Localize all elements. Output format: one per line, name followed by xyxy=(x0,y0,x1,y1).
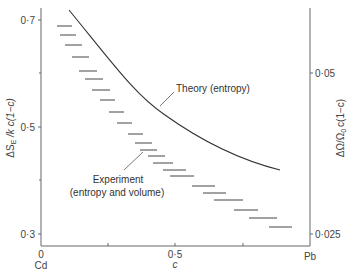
experiment-annotation-line2: (entropy and volume) xyxy=(70,187,165,198)
y-right-axis-title: ΔΩ/Ω0c(1−c) xyxy=(335,99,347,157)
axes xyxy=(41,8,310,246)
y-left-axis-title: ΔSE /k c(1−c) xyxy=(5,98,17,157)
x-tick-0: 0 xyxy=(38,249,44,260)
theory-leader-line xyxy=(160,92,174,106)
y-left-tick-0-5: 0·5 xyxy=(21,122,36,133)
theory-annotation: Theory (entropy) xyxy=(176,83,250,94)
experiment-annotation-line1: Experiment xyxy=(93,174,144,185)
y-left-tick-0-7: 0·7 xyxy=(21,15,36,26)
x-element-cd: Cd xyxy=(35,260,48,271)
y-right-tick-0-05: 0·05 xyxy=(315,68,335,79)
x-axis-title: c xyxy=(173,259,178,270)
y-right-tick-0-025: 0·025 xyxy=(315,229,341,240)
x-element-pb: Pb xyxy=(304,251,317,262)
experiment-leader-line xyxy=(124,152,143,170)
chart-canvas: 0·7 0·5 0·3 0·05 0·025 0 Cd 0·5 c Pb ΔSE… xyxy=(0,0,352,275)
y-left-tick-0-3: 0·3 xyxy=(21,229,36,240)
